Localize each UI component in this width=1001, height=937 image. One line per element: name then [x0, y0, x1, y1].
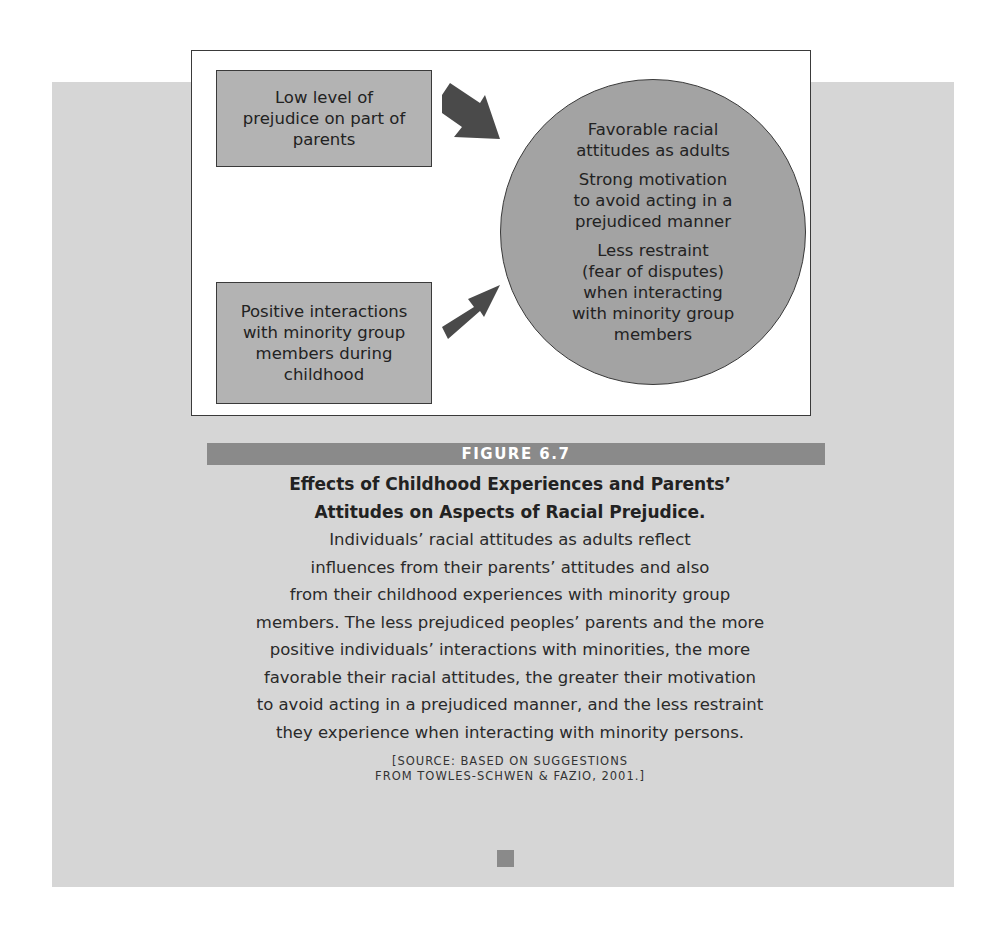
- caption-body: Individuals’ racial attitudes as adults …: [190, 526, 830, 746]
- caption-title: Effects of Childhood Experiences and Par…: [190, 470, 830, 526]
- cause-box-parental-prejudice: Low level of prejudice on part of parent…: [216, 70, 432, 167]
- arrow-up-right-icon: [440, 283, 502, 343]
- outcomes-circle: Favorable racial attitudes as adults Str…: [500, 79, 806, 385]
- outcome-less-restraint: Less restraint (fear of disputes) when i…: [572, 240, 734, 345]
- cause-label: Low level of prejudice on part of parent…: [243, 87, 405, 150]
- figure-label-bar: FIGURE 6.7: [207, 443, 825, 465]
- end-square-icon: [497, 850, 514, 867]
- arrow-down-right-icon: [440, 83, 502, 141]
- caption-source: [SOURCE: BASED ON SUGGESTIONS FROM TOWLE…: [190, 754, 830, 784]
- outcome-strong-motivation: Strong motivation to avoid acting in a p…: [574, 169, 733, 232]
- diagram-frame: Low level of prejudice on part of parent…: [191, 50, 811, 416]
- cause-box-childhood-interactions: Positive interactions with minority grou…: [216, 282, 432, 404]
- figure-caption: Effects of Childhood Experiences and Par…: [190, 470, 830, 784]
- cause-label: Positive interactions with minority grou…: [241, 301, 408, 385]
- outcome-favorable-attitudes: Favorable racial attitudes as adults: [576, 119, 730, 161]
